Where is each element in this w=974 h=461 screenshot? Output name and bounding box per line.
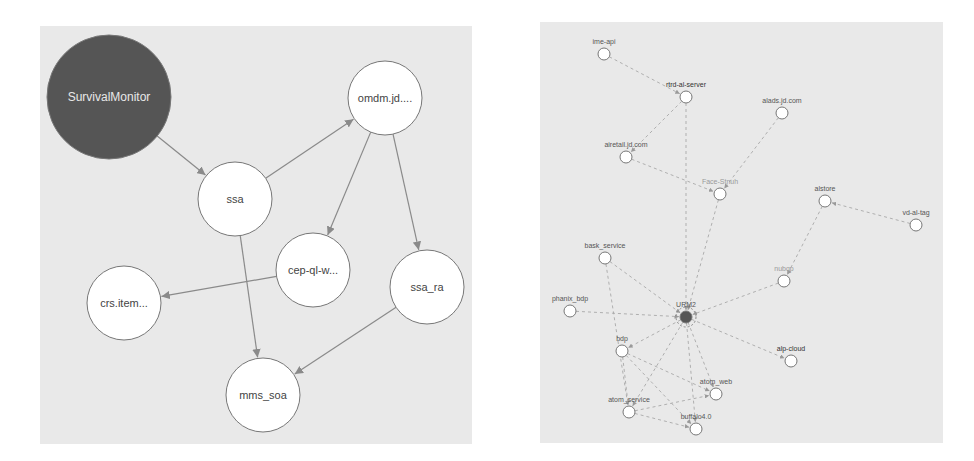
node-label: phanix_bdp xyxy=(552,295,588,303)
node-label: cep-ql-w... xyxy=(288,264,338,276)
node-label: ssa xyxy=(226,193,244,205)
node-label: alads.jd.com xyxy=(762,97,801,105)
node-bask[interactable]: bask_service xyxy=(585,242,626,264)
edge-ime-api-to-rtrd-al-server xyxy=(609,57,679,94)
node-label: bask_service xyxy=(585,242,626,250)
node-label: ime-api xyxy=(593,38,616,46)
edge-vd-al-tag-to-alstore xyxy=(832,203,910,224)
node-SurvivalMonitor[interactable]: SurvivalMonitor xyxy=(47,35,171,159)
edge-omdm-to-ssa_ra xyxy=(393,134,419,250)
node-alp-cloud[interactable]: alp-cloud xyxy=(777,345,806,367)
edge-SurvivalMonitor-to-ssa xyxy=(157,136,205,175)
node-bdp[interactable]: bdp xyxy=(616,335,628,357)
node-label: mms_soa xyxy=(239,389,288,401)
edge-URM2-to-atom_service xyxy=(633,322,683,406)
edge-face-to-URM2 xyxy=(688,200,719,310)
node-omdm[interactable]: omdm.jd.... xyxy=(348,61,422,135)
edge-ssa-to-mms_soa xyxy=(240,236,257,358)
node-atom_service[interactable]: atom_service xyxy=(608,396,650,418)
node-crs[interactable]: crs.item... xyxy=(87,266,161,340)
node-alstore[interactable]: alstore xyxy=(814,185,835,207)
node-label: Face-Stnuh xyxy=(702,178,738,185)
node-circle[interactable] xyxy=(680,311,692,323)
node-label: omdm.jd.... xyxy=(358,92,412,104)
edge-bask-to-URM2 xyxy=(610,262,680,313)
node-circle[interactable] xyxy=(714,188,726,200)
node-ssa[interactable]: ssa xyxy=(198,162,272,236)
node-vd-al-tag[interactable]: vd-al-tag xyxy=(902,209,929,231)
node-ssa_ra[interactable]: ssa_ra xyxy=(390,250,464,324)
left-diagram-nodes: SurvivalMonitorssaomdm.jd....cep-ql-w...… xyxy=(47,35,464,432)
node-label: rtrd-al-server xyxy=(666,81,707,88)
edge-URM2-to-bdp xyxy=(628,320,681,348)
node-face[interactable]: Face-Stnuh xyxy=(702,178,738,200)
edge-ssa-to-omdm xyxy=(266,119,354,178)
node-circle[interactable] xyxy=(620,151,632,163)
node-cep[interactable]: cep-ql-w... xyxy=(276,233,350,307)
node-label: buffalo4.0 xyxy=(681,413,712,420)
right-diagram-nodes: ime-apirtrd-al-serveralads.jd.comairetai… xyxy=(552,38,930,435)
node-circle[interactable] xyxy=(710,388,722,400)
edge-bdp-to-atom_web xyxy=(627,353,709,391)
node-circle[interactable] xyxy=(910,219,922,231)
node-circle[interactable] xyxy=(785,355,797,367)
edge-nubqp-to-URM2 xyxy=(693,283,779,315)
node-label: atom_web xyxy=(700,378,732,386)
node-circle[interactable] xyxy=(598,48,610,60)
edge-omdm-to-cep xyxy=(328,132,371,235)
edge-airetail-to-face xyxy=(632,159,714,191)
edge-phanix-to-URM2 xyxy=(576,311,679,316)
node-circle[interactable] xyxy=(623,406,635,418)
node-airetail[interactable]: airetail.jd.com xyxy=(604,141,647,163)
node-label: alp-cloud xyxy=(777,345,806,353)
node-label: ssa_ra xyxy=(410,281,444,293)
node-label: SurvivalMonitor xyxy=(68,90,151,104)
node-circle[interactable] xyxy=(564,305,576,317)
node-alads[interactable]: alads.jd.com xyxy=(762,97,801,119)
node-ime-api[interactable]: ime-api xyxy=(593,38,616,60)
edge-URM2-to-alp-cloud xyxy=(692,319,785,358)
node-label: airetail.jd.com xyxy=(604,141,647,149)
node-label: nubqp xyxy=(774,265,794,273)
node-buffalo[interactable]: buffalo4.0 xyxy=(681,413,712,435)
node-label: URM2 xyxy=(676,301,696,308)
node-circle[interactable] xyxy=(680,91,692,103)
node-circle[interactable] xyxy=(776,107,788,119)
right-diagram-edges xyxy=(576,57,910,427)
node-circle[interactable] xyxy=(819,195,831,207)
node-label: alstore xyxy=(814,185,835,192)
node-circle[interactable] xyxy=(616,345,628,357)
node-mms_soa[interactable]: mms_soa xyxy=(226,358,300,432)
edge-cep-to-crs xyxy=(161,276,276,296)
edge-URM2-to-buffalo xyxy=(687,323,696,422)
node-phanix[interactable]: phanix_bdp xyxy=(552,295,588,317)
node-rtrd-al-server[interactable]: rtrd-al-server xyxy=(666,81,707,103)
node-label: crs.item... xyxy=(100,297,148,309)
node-circle[interactable] xyxy=(690,423,702,435)
diagram-canvas: SurvivalMonitorssaomdm.jd....cep-ql-w...… xyxy=(0,0,974,461)
node-circle[interactable] xyxy=(599,252,611,264)
node-label: atom_service xyxy=(608,396,650,404)
node-circle[interactable] xyxy=(778,275,790,287)
edge-ssa_ra-to-mms_soa xyxy=(295,307,396,374)
node-label: bdp xyxy=(616,335,628,343)
node-label: vd-al-tag xyxy=(902,209,929,217)
